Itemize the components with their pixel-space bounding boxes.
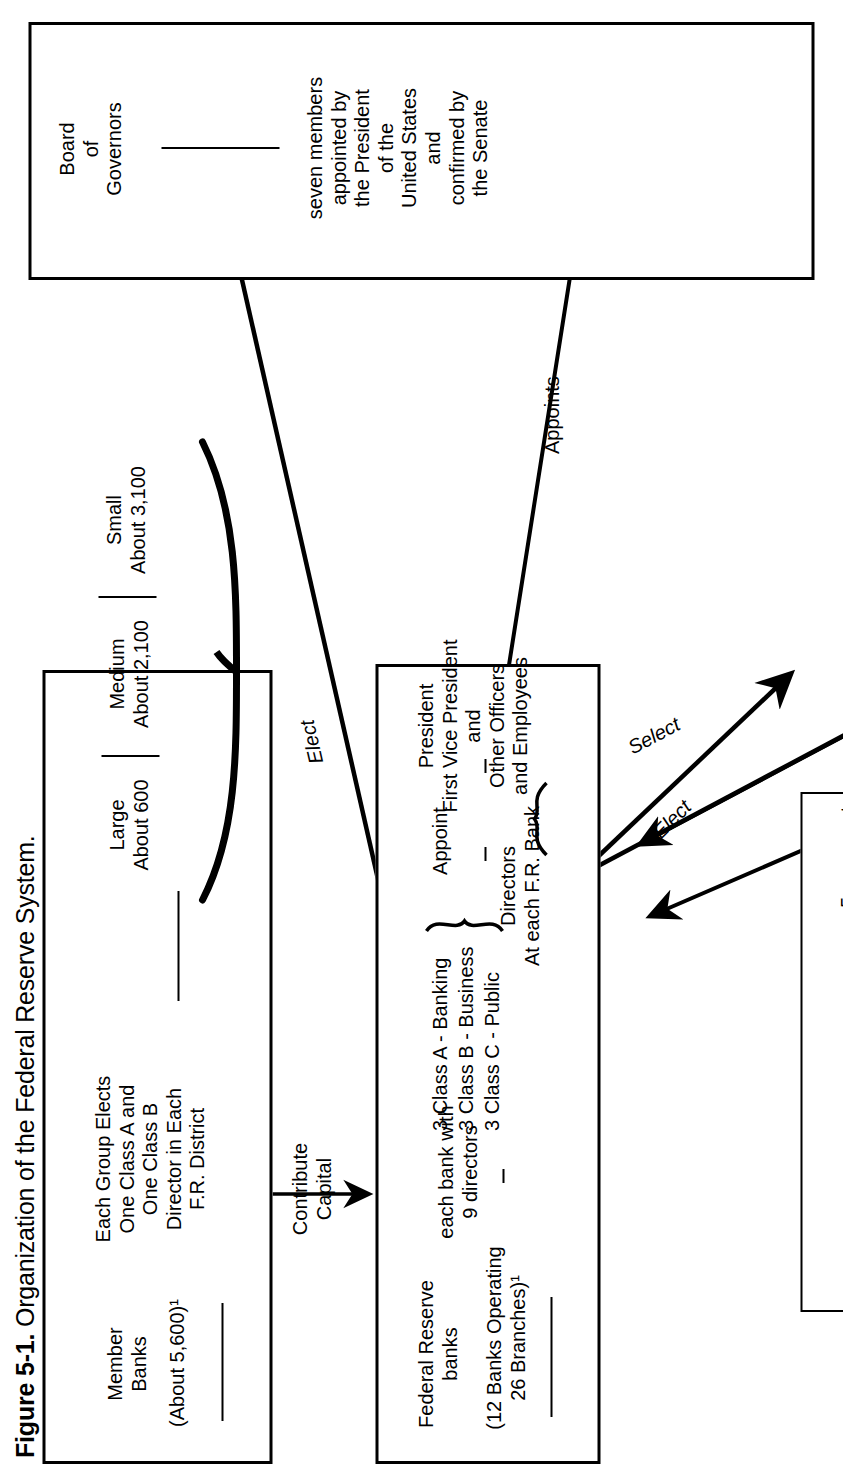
label-appoints: Appoints [540,376,564,454]
fomc-right-members: 5 represent- atives of F.R. banks [836,784,843,924]
fr-banks-class-b: 3 Class B - Business [454,946,478,1131]
fr-banks-title: Federal Reserve banks [414,1259,461,1449]
fr-banks-divider [550,1297,552,1417]
fr-banks-officers: President First Vice President and Other… [414,601,532,851]
label-contribute-capital: Contribute Capital [288,1114,335,1264]
fomc-box: Federal Open Market Committee 7 members … [800,792,843,1312]
fr-banks-dash-1 [502,1169,504,1183]
fr-banks-class-c: 3 Class C - Public [480,972,504,1131]
member-banks-group-brace [196,424,242,904]
group-divider-2 [98,597,156,599]
fr-banks-class-a: 3 Class A - Banking [428,958,452,1131]
fr-banks-class-brace [422,907,506,937]
federal-reserve-banks-box: Federal Reserve banks (12 Banks Operatin… [375,664,600,1464]
figure-canvas: Figure 5-1. Organization of the Federal … [0,0,843,1464]
board-of-governors-note: seven members appointed by the President… [303,29,492,267]
board-of-governors-box: Board of Governors seven members appoint… [28,22,814,280]
member-banks-group-small: Small About 3,100 [102,450,149,590]
fr-banks-officers-brace [524,779,552,859]
board-of-governors-title: Board of Governors [55,39,126,259]
board-of-governors-divider [161,147,279,149]
fr-banks-count: (12 Banks Operating 26 Branches)¹ [482,1223,529,1453]
